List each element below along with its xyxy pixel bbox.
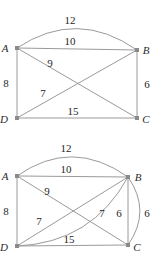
weight-label-db-diagonal: 7 (36, 215, 42, 227)
edge-ab (17, 176, 128, 177)
vertex-dot-a (15, 174, 19, 178)
vertex-dot-a (15, 46, 19, 50)
weight-label-dc: 15 (64, 233, 76, 245)
weight-label-bc-arc: 6 (144, 207, 150, 219)
weight-label-db-arc: 7 (99, 207, 105, 219)
edge-dc (17, 245, 128, 246)
vertex-dot-c (126, 243, 130, 247)
weight-label-ab: 10 (65, 35, 77, 47)
vertex-dot-b (126, 175, 130, 179)
weight-label-ab-arc: 12 (65, 14, 76, 26)
edge-ab (17, 48, 137, 50)
vertex-label-a: A (1, 170, 9, 182)
weight-label-ad: 8 (3, 77, 9, 89)
vertex-dot-d (15, 244, 19, 248)
vertex-label-d: D (0, 113, 8, 125)
vertex-label-c: C (142, 113, 150, 125)
edge-ab-arc (17, 28, 137, 50)
figure-top: A B C D 12 10 8 6 15 9 7 (0, 0, 166, 131)
weight-label-ab: 10 (61, 163, 73, 175)
vertex-label-c: C (133, 241, 141, 253)
weight-label-ad: 8 (3, 205, 9, 217)
weight-label-dc: 15 (68, 105, 80, 117)
weight-label-bc: 6 (144, 78, 150, 90)
diagram-canvas: A B C D 12 10 8 6 15 9 7 A B (0, 0, 166, 263)
vertex-label-b: B (135, 171, 142, 183)
vertex-label-a: A (1, 42, 9, 54)
figure-bottom: A B C D 12 10 8 6 6 15 9 7 7 (0, 131, 166, 263)
weight-label-bc: 6 (116, 207, 122, 219)
weight-label-ac-diagonal: 9 (47, 57, 53, 69)
edge-ab-arc (17, 157, 128, 177)
weight-label-db-diagonal: 7 (40, 87, 46, 99)
vertex-label-d: D (0, 241, 8, 253)
weight-label-ab-arc: 12 (61, 142, 72, 154)
weight-label-ac-diagonal: 9 (44, 185, 50, 197)
vertex-dot-b (135, 48, 139, 52)
vertex-label-b: B (143, 44, 150, 56)
edge-bc-arc (128, 177, 140, 245)
vertex-dot-d (15, 116, 19, 120)
vertex-dot-c (135, 116, 139, 120)
